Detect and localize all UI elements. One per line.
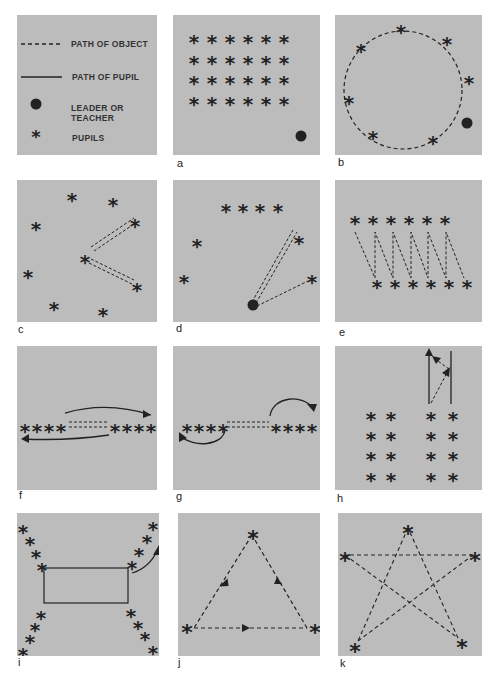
- formation-e: ****** ******: [335, 180, 482, 322]
- pupils-circle: *** ****: [344, 20, 475, 155]
- rectangle-area: [44, 568, 128, 603]
- arrowhead-icon: [307, 404, 317, 412]
- svg-text:*: *: [206, 419, 217, 443]
- pupils-lines: **** ****: [20, 419, 157, 443]
- legend-label-pupils: PUPILS: [72, 133, 105, 143]
- leader-icon: [296, 131, 307, 142]
- formation-k: *** **: [338, 513, 482, 656]
- svg-text:*: *: [80, 250, 91, 274]
- svg-text:*: *: [221, 199, 232, 223]
- pupils-two-lines: ****** ******: [350, 211, 473, 299]
- svg-text:*: *: [179, 270, 190, 294]
- svg-text:*: *: [247, 526, 259, 551]
- svg-text:*: *: [218, 419, 229, 443]
- svg-text:*: *: [349, 639, 361, 656]
- panel-label-a: a: [177, 157, 183, 169]
- leader-icon: [462, 118, 473, 129]
- svg-text:*: *: [31, 217, 42, 241]
- svg-text:*: *: [386, 468, 397, 490]
- object-paths: [69, 422, 109, 427]
- formation-c: **** *****: [17, 180, 157, 322]
- panel-label-d: d: [176, 322, 182, 334]
- pupils-triangle: ***: [181, 526, 320, 645]
- svg-text:*: *: [356, 39, 367, 63]
- arrowhead-icon: [425, 348, 433, 356]
- svg-text:*: *: [307, 270, 318, 294]
- svg-text:*: *: [344, 91, 355, 115]
- svg-text:*: *: [408, 275, 419, 299]
- svg-text:*: *: [37, 558, 48, 582]
- svg-text:*: *: [130, 214, 141, 238]
- svg-text:*: *: [404, 211, 415, 235]
- svg-text:*: *: [255, 199, 266, 223]
- svg-text:*: *: [440, 211, 451, 235]
- svg-text:*: *: [339, 548, 351, 573]
- panel-label-j: j: [178, 656, 180, 668]
- panel-f: **** ****: [17, 346, 157, 490]
- panel-label-h: h: [337, 492, 343, 504]
- panel-d: **** ****: [173, 180, 320, 322]
- pupils-semicircle: **** ****: [179, 199, 318, 294]
- pupils-diagonals: **** **** **** ****: [18, 517, 159, 656]
- formation-g: **** ****: [173, 346, 320, 490]
- svg-text:*: *: [448, 468, 459, 490]
- panel-a: ****** ****** ****** ******: [173, 15, 320, 155]
- pupil-path-right: [65, 407, 151, 415]
- svg-text:*: *: [108, 193, 119, 217]
- svg-text:*: *: [368, 126, 379, 150]
- leader-icon: [248, 300, 259, 311]
- panel-label-i: i: [18, 656, 20, 668]
- svg-text:*: *: [279, 92, 290, 116]
- zigzag-path: [355, 232, 464, 278]
- svg-text:*: *: [294, 231, 305, 255]
- svg-text:*: *: [110, 419, 121, 443]
- svg-text:*: *: [283, 419, 294, 443]
- svg-text:*: *: [243, 92, 254, 116]
- svg-text:*: *: [456, 635, 468, 656]
- svg-text:*: *: [192, 234, 203, 258]
- svg-text:*: *: [56, 419, 67, 443]
- svg-text:*: *: [49, 297, 60, 321]
- panel-b: *** ****: [335, 15, 482, 155]
- svg-text:*: *: [368, 211, 379, 235]
- panel-k: *** **: [338, 513, 482, 656]
- svg-text:*: *: [20, 419, 31, 443]
- panel-j: ***: [178, 513, 320, 656]
- formation-a: ****** ****** ****** ******: [173, 15, 320, 155]
- svg-text:*: *: [295, 419, 306, 443]
- svg-text:*: *: [182, 419, 193, 443]
- panel-label-f: f: [19, 489, 22, 501]
- svg-text:*: *: [464, 71, 475, 95]
- svg-text:*: *: [271, 419, 282, 443]
- panel-label-b: b: [338, 156, 344, 168]
- formation-b: *** ****: [335, 15, 482, 155]
- svg-text:*: *: [23, 265, 34, 289]
- svg-text:*: *: [390, 275, 401, 299]
- svg-text:*: *: [146, 419, 157, 443]
- svg-text:*: *: [442, 32, 453, 56]
- svg-text:*: *: [469, 548, 481, 573]
- arrowhead-icon: [153, 545, 159, 555]
- svg-text:*: *: [194, 419, 205, 443]
- svg-text:*: *: [386, 211, 397, 235]
- svg-text:*: *: [181, 620, 193, 645]
- pupil-rows: ****** ****** ****** ******: [189, 30, 290, 116]
- formation-d: **** ****: [173, 180, 320, 322]
- svg-text:*: *: [238, 199, 249, 223]
- svg-text:*: *: [426, 468, 437, 490]
- svg-text:*: *: [372, 275, 383, 299]
- svg-text:*: *: [396, 20, 407, 44]
- legend-label-object: PATH OF OBJECT: [71, 39, 148, 49]
- svg-text:*: *: [134, 419, 145, 443]
- svg-text:*: *: [225, 92, 236, 116]
- formation-j: ***: [178, 513, 320, 656]
- object-path: [431, 371, 448, 403]
- svg-text:*: *: [422, 211, 433, 235]
- svg-text:*: *: [309, 620, 320, 645]
- object-paths: [227, 422, 269, 427]
- svg-text:*: *: [189, 92, 200, 116]
- svg-text:*: *: [148, 641, 159, 656]
- pupil-asterisk-icon: *: [31, 126, 41, 147]
- svg-text:*: *: [18, 643, 29, 656]
- formation-i: **** **** **** ****: [17, 513, 159, 656]
